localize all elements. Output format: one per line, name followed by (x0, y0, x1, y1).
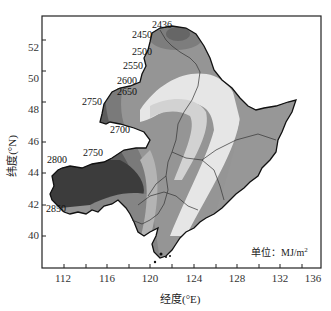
svg-text:2436: 2436 (152, 19, 172, 30)
svg-text:2650: 2650 (117, 86, 137, 97)
svg-text:124: 124 (186, 272, 203, 284)
svg-text:128: 128 (229, 272, 246, 284)
svg-text:52: 52 (28, 41, 39, 53)
svg-text:112: 112 (55, 272, 71, 284)
map-plot: 112 116 120 124 128 132 136 40 42 44 46 … (0, 0, 331, 311)
svg-text:2450: 2450 (132, 29, 152, 40)
svg-text:136: 136 (305, 272, 322, 284)
svg-text:2550: 2550 (123, 60, 143, 71)
unit-superscript: 2 (304, 246, 308, 254)
svg-text:44: 44 (28, 166, 40, 178)
svg-text:116: 116 (99, 272, 116, 284)
svg-text:50: 50 (28, 72, 40, 84)
contour-map-figure: 112 116 120 124 128 132 136 40 42 44 46 … (0, 0, 331, 311)
svg-text:42: 42 (28, 198, 39, 210)
svg-text:40: 40 (28, 229, 40, 241)
svg-text:2700: 2700 (110, 124, 130, 135)
svg-text:120: 120 (142, 272, 159, 284)
svg-text:48: 48 (28, 103, 40, 115)
svg-text:132: 132 (272, 272, 289, 284)
svg-text:2500: 2500 (132, 46, 152, 57)
x-tick-labels: 112 116 120 124 128 132 136 (55, 272, 322, 284)
svg-text:2800: 2800 (47, 154, 67, 165)
x-axis-ticks (64, 264, 302, 268)
svg-text:2600: 2600 (117, 75, 137, 86)
x-axis-title: 经度(°E) (160, 290, 200, 306)
y-tick-labels: 40 42 44 46 48 50 52 (28, 41, 40, 241)
y-axis-title: 纬度(°N) (3, 131, 19, 181)
svg-text:46: 46 (28, 135, 40, 147)
svg-text:2850: 2850 (46, 203, 66, 214)
svg-text:2750: 2750 (82, 96, 102, 107)
svg-text:2750: 2750 (83, 147, 103, 158)
unit-annotation: 单位：MJ/m2 (251, 244, 308, 259)
unit-text: 单位：MJ/m (251, 247, 304, 258)
contour-fills (40, 20, 320, 270)
